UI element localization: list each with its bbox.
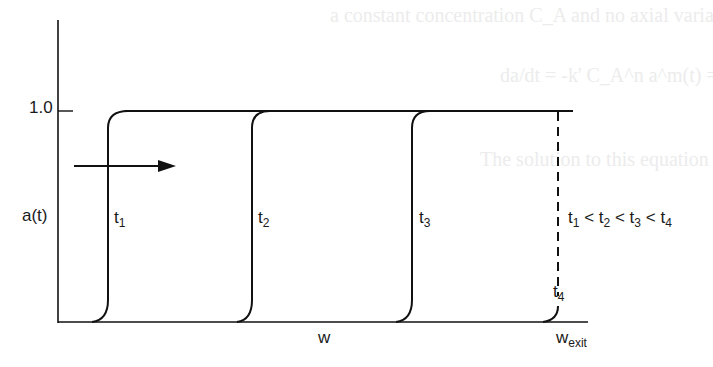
curve-label-t2: t2 bbox=[258, 208, 269, 230]
curve-label-t4: t4 bbox=[553, 282, 564, 304]
y-axis-label: a(t) bbox=[22, 206, 48, 226]
x-axis-label: w bbox=[318, 328, 330, 348]
deactivation-diagram bbox=[0, 0, 713, 367]
direction-arrow-icon bbox=[158, 160, 176, 172]
time-ordering-label: t1 < t2 < t3 < t4 bbox=[568, 208, 672, 230]
y-tick-label: 1.0 bbox=[29, 98, 53, 118]
curve-label-t1: t1 bbox=[114, 208, 125, 230]
x-exit-label: wexit bbox=[556, 328, 587, 350]
curve-label-t3: t3 bbox=[419, 208, 430, 230]
curve-t4-foot bbox=[543, 306, 558, 322]
